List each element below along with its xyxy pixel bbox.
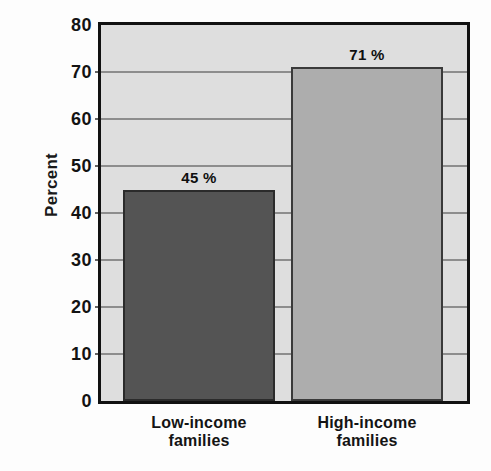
bar-chart: Percent 01020304050607080 45 %71 % Low-i… xyxy=(0,0,491,471)
x-axis-category-label: Low-income families xyxy=(104,414,294,451)
y-axis-tick-label: 40 xyxy=(44,204,92,222)
bar xyxy=(123,190,275,402)
y-axis-tick-label: 0 xyxy=(44,392,92,410)
bar-value-label: 71 % xyxy=(291,46,443,63)
y-axis-tick-label: 10 xyxy=(44,345,92,363)
x-axis-category-label: High-income families xyxy=(272,414,462,451)
y-axis-tick-label: 80 xyxy=(44,16,92,34)
y-axis-tick-label: 20 xyxy=(44,298,92,316)
y-axis-tick-labels: 01020304050607080 xyxy=(44,0,92,471)
plot-inner xyxy=(101,25,467,401)
y-axis-tick-label: 70 xyxy=(44,63,92,81)
bar xyxy=(291,67,443,401)
y-axis-tick-label: 60 xyxy=(44,110,92,128)
plot-area xyxy=(98,22,470,404)
bar-value-label: 45 % xyxy=(123,169,275,186)
y-axis-tick-label: 50 xyxy=(44,157,92,175)
y-axis-tick-label: 30 xyxy=(44,251,92,269)
